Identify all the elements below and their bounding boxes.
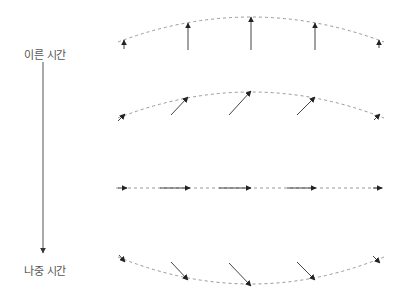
row-1-vertical [118,17,384,50]
dashed-wave-curve [118,257,384,284]
field-vector-arrow-icon [373,256,380,263]
field-rows [116,17,386,286]
early-time-label: 이른 시간 [24,46,66,62]
field-vector-arrow-icon [119,255,125,262]
late-time-label: 나중 시간 [24,262,66,278]
row-2-diagonal-up [118,91,384,121]
field-vector-arrow-icon [171,262,188,280]
field-vector-arrow-icon [297,262,315,280]
field-vector-arrow-icon [229,263,251,286]
field-vector-arrow-icon [229,91,251,115]
dashed-wave-curve [118,92,384,118]
field-vector-arrow-icon [171,97,188,115]
field-vector-arrow-icon [297,97,315,115]
row-4-diagonal-down [118,255,384,286]
